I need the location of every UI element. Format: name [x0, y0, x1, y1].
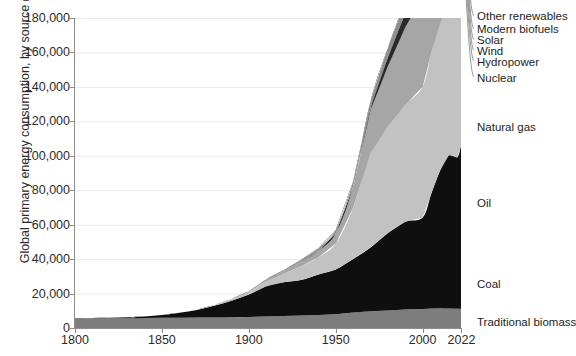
x-tick-1850: 1850: [148, 333, 176, 347]
stacked-area-svg: [75, 18, 461, 328]
x-tick-1950: 1950: [322, 333, 350, 347]
x-tick-2000: 2000: [409, 333, 437, 347]
series-label-nuclear: Nuclear: [477, 73, 517, 85]
y-tick-20000: 20,000: [32, 287, 70, 301]
series-label-traditional-biomass: Traditional biomass: [477, 317, 576, 329]
series-label-other-renewables: Other renewables: [477, 11, 568, 23]
x-tick-2022: 2022: [448, 333, 476, 347]
y-tick-60000: 60,000: [32, 218, 70, 232]
y-tick-140000: 140,000: [25, 80, 70, 94]
y-tick-100000: 100,000: [25, 149, 70, 163]
plot-area: [75, 18, 461, 328]
series-label-oil: Oil: [477, 198, 491, 210]
y-tick-160000: 160,000: [25, 45, 70, 59]
series-label-coal: Coal: [477, 279, 501, 291]
area-layers: [75, 18, 461, 328]
y-tick-180000: 180,000: [25, 11, 70, 25]
y-tick-120000: 120,000: [25, 114, 70, 128]
x-tick-1800: 1800: [61, 333, 89, 347]
y-tick-40000: 40,000: [32, 252, 70, 266]
y-axis-tick-group: 180,000 160,000 140,000 120,000 100,000 …: [0, 18, 70, 328]
series-label-hydropower: Hydropower: [477, 57, 539, 69]
x-tick-1900: 1900: [235, 333, 263, 347]
series-label-natural-gas: Natural gas: [477, 122, 536, 134]
y-tick-80000: 80,000: [32, 183, 70, 197]
